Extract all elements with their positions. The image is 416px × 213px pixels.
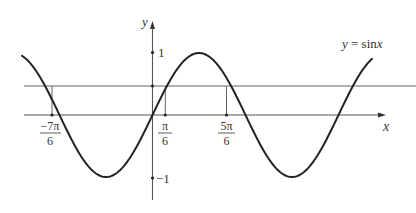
x-tick-numerator: −7π — [41, 119, 60, 133]
tick-dot-yneg1 — [151, 176, 154, 179]
x-axis-arrow-icon — [378, 113, 386, 118]
x-tick-numerator: π — [162, 119, 168, 133]
x-tick-numerator: 5π — [220, 119, 232, 133]
curve-label: y = sinx — [340, 36, 383, 51]
tick-dot-neg7pi6 — [50, 113, 53, 116]
x-tick-denominator: 6 — [47, 134, 53, 148]
x-tick-denominator: 6 — [162, 134, 168, 148]
tick-dot-pi6 — [164, 113, 167, 116]
x-tick-label-neg7pi6: −7π 6 — [40, 119, 61, 148]
y-axis-label: y — [140, 14, 148, 29]
y-tick-label-neg1: −1 — [156, 171, 170, 186]
y-tick-label-1: 1 — [158, 45, 165, 60]
y-axis-arrow-icon — [150, 21, 155, 29]
sine-graph: y x 1 −1 −7π 6 π 6 5π 6 y = sinx — [0, 0, 416, 213]
tick-dot-5pi6 — [225, 113, 228, 116]
x-tick-label-pi6: π 6 — [158, 119, 172, 148]
curve-label-eq: = sin — [348, 36, 378, 51]
x-label: x — [382, 119, 390, 134]
x-tick-denominator: 6 — [224, 134, 230, 148]
x-tick-label-5pi6: 5π 6 — [218, 119, 235, 148]
tick-dot-y1 — [151, 51, 154, 54]
tick-dot-yhalf — [151, 84, 154, 87]
curve-label-x: x — [376, 36, 383, 51]
